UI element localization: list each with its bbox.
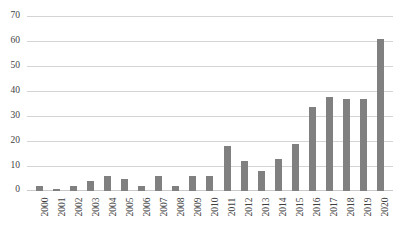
x-axis-label-slot: 2001 [48,193,65,232]
plot-area: 70 60 50 40 30 20 10 0 [27,16,393,191]
y-axis-tick-label: 20 [0,136,20,146]
bar [258,171,265,191]
x-axis-label-slot: 2010 [201,193,218,232]
bar-series [27,16,393,191]
y-axis-tick-label: 60 [0,36,20,46]
x-axis-label-slot: 2018 [338,193,355,232]
y-axis-tick-label: 40 [0,86,20,96]
bar [241,161,248,191]
bar-slot [184,16,201,191]
bar [377,39,384,191]
bar [36,186,43,191]
x-axis-label-slot: 2012 [236,193,253,232]
x-axis-label-slot: 2000 [31,193,48,232]
bar [292,144,299,191]
bar-slot [116,16,133,191]
x-axis-label-slot: 2005 [116,193,133,232]
bar [138,186,145,191]
bar [172,186,179,191]
x-axis-label-slot: 2014 [270,193,287,232]
bar-slot [270,16,287,191]
bar [275,159,282,191]
x-axis-label-slot: 2008 [167,193,184,232]
x-axis-label-slot: 2007 [150,193,167,232]
bar-slot [219,16,236,191]
x-axis-label-slot: 2009 [184,193,201,232]
x-axis-labels: 2000200120022003200420052006200720082009… [27,193,393,232]
x-axis-label-slot: 2019 [355,193,372,232]
x-axis-label-slot: 2002 [65,193,82,232]
bar-slot [99,16,116,191]
x-axis-label-slot: 2003 [82,193,99,232]
bar [309,107,316,192]
bar [224,146,231,191]
bar-slot [48,16,65,191]
bar [326,97,333,191]
bar-slot [321,16,338,191]
bar-slot [150,16,167,191]
x-axis-label-slot: 2016 [304,193,321,232]
y-axis-tick-label: 50 [0,61,20,71]
y-axis-tick-label: 30 [0,111,20,121]
bar [104,176,111,191]
bar-slot [304,16,321,191]
bar [206,176,213,191]
bar-slot [355,16,372,191]
x-axis-label-slot: 2011 [219,193,236,232]
bar [189,176,196,191]
bar-slot [253,16,270,191]
bar-chart: 70 60 50 40 30 20 10 0 20002001200220032… [0,0,397,232]
bar [70,186,77,191]
bar-slot [287,16,304,191]
bar [121,179,128,191]
bar-slot [201,16,218,191]
y-axis-tick-label: 70 [0,11,20,21]
bar [343,99,350,191]
x-axis-tick-label: 2020 [380,198,390,217]
bar [53,189,60,191]
bar [155,176,162,191]
bar-slot [65,16,82,191]
bar [87,181,94,191]
x-axis-label-slot: 2017 [321,193,338,232]
bar-slot [133,16,150,191]
x-axis-label-slot: 2020 [372,193,389,232]
x-axis-label-slot: 2006 [133,193,150,232]
y-axis-tick-label: 0 [0,185,20,195]
bar-slot [372,16,389,191]
bar [360,99,367,191]
bar-slot [31,16,48,191]
bar-slot [167,16,184,191]
bar-slot [338,16,355,191]
x-axis-label-slot: 2013 [253,193,270,232]
y-axis-tick-label: 10 [0,161,20,171]
bar-slot [82,16,99,191]
x-axis-label-slot: 2004 [99,193,116,232]
x-axis-label-slot: 2015 [287,193,304,232]
bar-slot [236,16,253,191]
